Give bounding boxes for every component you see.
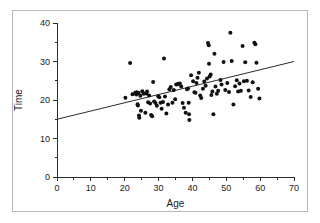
- data-point: [257, 96, 261, 100]
- data-point: [187, 101, 191, 105]
- data-point: [222, 60, 226, 64]
- axis-labels: 010203040010203040506070AgeTime: [13, 18, 299, 209]
- data-points: [123, 31, 261, 122]
- data-point: [219, 78, 223, 82]
- data-point: [155, 104, 159, 108]
- data-point: [151, 80, 155, 84]
- data-point: [173, 97, 177, 101]
- data-point: [235, 78, 239, 82]
- data-point: [187, 118, 191, 122]
- data-point: [196, 76, 200, 80]
- data-point: [251, 80, 255, 84]
- data-point: [187, 112, 191, 116]
- x-tick-label: 0: [54, 183, 59, 193]
- data-point: [220, 83, 224, 87]
- data-point: [204, 84, 208, 88]
- x-tick-label: 30: [154, 183, 164, 193]
- scatter-plot: 010203040010203040506070AgeTime: [0, 0, 320, 223]
- x-tick-label: 20: [120, 183, 130, 193]
- data-point: [247, 88, 251, 92]
- data-point: [189, 73, 193, 77]
- data-point: [166, 103, 170, 107]
- y-tick-label: 0: [45, 172, 50, 182]
- x-tick-label: 60: [255, 183, 265, 193]
- data-point: [211, 112, 215, 116]
- data-point: [128, 61, 132, 65]
- data-point: [245, 79, 249, 83]
- data-point: [139, 109, 143, 113]
- y-tick-label: 40: [40, 18, 50, 28]
- data-point: [199, 96, 203, 100]
- data-point: [202, 80, 206, 84]
- data-point: [169, 85, 173, 89]
- data-point: [213, 85, 217, 89]
- data-point: [170, 101, 174, 105]
- data-point: [223, 88, 227, 92]
- data-point: [212, 52, 216, 56]
- data-point: [145, 90, 149, 94]
- data-point: [231, 103, 235, 107]
- data-point: [253, 42, 257, 46]
- data-point: [163, 95, 167, 99]
- data-point: [225, 81, 229, 85]
- data-point: [148, 101, 152, 105]
- data-point: [201, 87, 205, 91]
- data-point: [243, 60, 247, 64]
- data-point: [137, 116, 141, 120]
- data-point: [161, 100, 165, 104]
- y-tick-label: 10: [40, 134, 50, 144]
- data-point: [123, 96, 127, 100]
- data-point: [237, 81, 241, 85]
- data-point: [162, 56, 166, 60]
- data-point: [230, 59, 234, 63]
- x-tick-label: 70: [289, 183, 299, 193]
- data-point: [249, 95, 253, 99]
- data-point: [172, 88, 176, 92]
- data-point: [256, 87, 260, 91]
- data-point: [191, 79, 195, 83]
- data-point: [209, 73, 213, 77]
- data-point: [228, 31, 232, 35]
- y-axis-title: Time: [13, 89, 24, 111]
- data-point: [233, 84, 237, 88]
- x-tick-label: 10: [86, 183, 96, 193]
- y-tick-label: 30: [40, 57, 50, 67]
- data-point: [164, 111, 168, 115]
- data-point: [136, 103, 140, 107]
- data-point: [193, 91, 197, 95]
- data-point: [179, 85, 183, 89]
- data-point: [143, 111, 147, 115]
- x-axis-title: Age: [167, 198, 185, 209]
- data-point: [186, 86, 190, 90]
- data-point: [138, 94, 142, 98]
- data-point: [181, 101, 185, 105]
- data-point: [194, 81, 198, 85]
- data-point: [160, 107, 164, 111]
- data-point: [239, 89, 243, 93]
- data-point: [227, 90, 231, 94]
- data-point: [207, 43, 211, 47]
- y-tick-label: 20: [40, 95, 50, 105]
- data-point: [182, 106, 186, 110]
- data-point: [157, 95, 161, 99]
- data-point: [147, 93, 151, 97]
- data-point: [150, 114, 154, 118]
- data-point: [210, 90, 214, 94]
- x-tick-label: 50: [221, 183, 231, 193]
- data-point: [207, 62, 211, 66]
- x-tick-label: 40: [187, 183, 197, 193]
- data-point: [254, 61, 258, 65]
- data-point: [216, 89, 220, 93]
- data-point: [197, 71, 201, 75]
- data-point: [209, 93, 213, 97]
- data-point: [241, 44, 245, 48]
